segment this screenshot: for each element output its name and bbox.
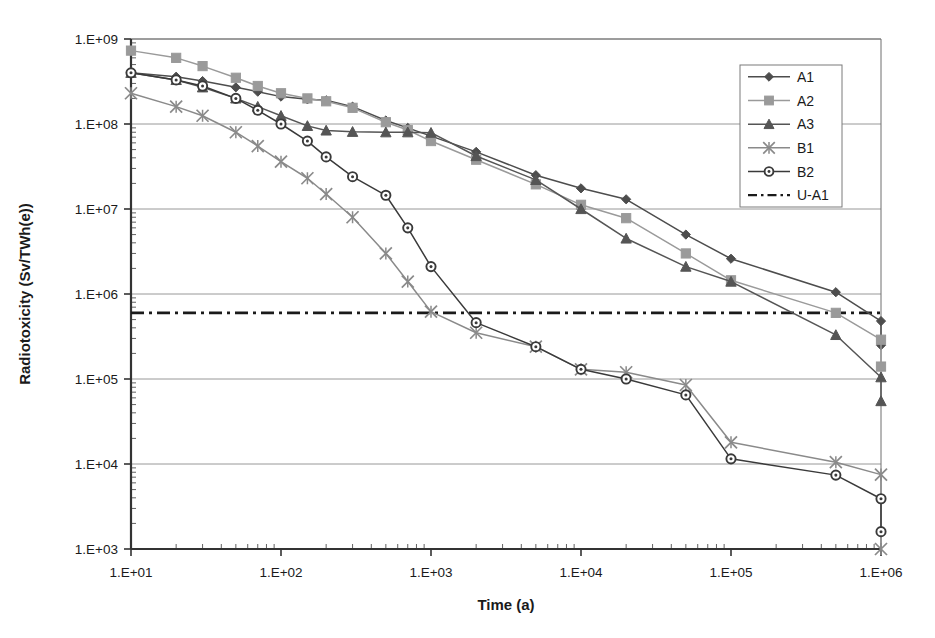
data-point-marker [129,71,132,74]
data-point-marker [175,78,178,81]
data-point-marker [765,96,774,105]
y-tick-label: 1.E+05 [75,372,118,387]
x-tick-label: 1.E+05 [709,565,752,580]
x-tick-label: 1.E+04 [559,565,603,580]
chart-figure: 1.E+011.E+021.E+031.E+041.E+051.E+06 1.E… [0,0,935,638]
data-point-marker [429,265,432,268]
data-point-marker [126,46,135,55]
data-point-marker [381,118,390,127]
data-point-marker [406,226,409,229]
data-point-marker [325,155,328,158]
y-tick-label: 1.E+04 [75,457,119,472]
data-point-marker [729,457,732,460]
y-tick-label: 1.E+07 [75,202,118,217]
legend-label: B1 [797,140,814,156]
x-tick-label: 1.E+02 [259,565,302,580]
legend-label: U-A1 [797,187,829,203]
x-tick-label: 1.E+06 [859,565,902,580]
legend-label: A1 [797,69,814,85]
data-point-marker [834,474,837,477]
y-tick-label: 1.E+08 [75,117,118,132]
data-point-marker [348,103,357,112]
data-point-marker [876,335,885,344]
data-point-marker [625,377,628,380]
legend-label: B2 [797,164,814,180]
data-point-marker [172,53,181,62]
legend-label: A2 [797,93,814,109]
data-point-marker [231,73,240,82]
x-tick-label: 1.E+03 [409,565,452,580]
y-tick-label: 1.E+03 [75,542,118,557]
data-point-marker [351,175,354,178]
data-point-marker [768,170,771,173]
y-tick-label: 1.E+09 [75,32,118,47]
data-point-marker [253,81,262,90]
data-point-marker [475,321,478,324]
data-point-marker [306,140,309,143]
x-axis-title: Time (a) [477,596,534,613]
data-point-marker [426,136,435,145]
data-point-marker [579,368,582,371]
y-tick-label: 1.E+06 [75,287,118,302]
legend-box [740,65,842,207]
data-point-marker [303,94,312,103]
data-point-marker [322,97,331,106]
data-point-marker [234,97,237,100]
data-point-marker [198,61,207,70]
chart-legend: A1A2A3B1B2U-A1 [740,65,842,207]
data-point-marker [831,308,840,317]
data-point-marker [384,194,387,197]
x-tick-label: 1.E+01 [109,565,152,580]
data-point-marker [681,249,690,258]
data-point-marker [684,393,687,396]
data-point-marker [256,109,259,112]
data-point-marker [279,122,282,125]
radiotoxicity-line-chart: 1.E+011.E+021.E+031.E+041.E+051.E+06 1.E… [0,0,935,638]
data-point-marker [879,497,882,500]
data-point-marker [622,214,631,223]
legend-label: A3 [797,116,814,132]
y-axis-title: Radiotoxicity (Sv/TWh(e)) [16,203,33,385]
data-point-marker [201,84,204,87]
data-point-marker [276,89,285,98]
data-point-marker [534,345,537,348]
data-point-marker [876,362,885,371]
data-point-marker [879,530,882,533]
